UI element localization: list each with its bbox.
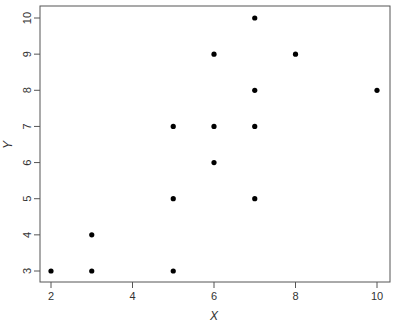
y-tick-label: 6 — [21, 160, 33, 166]
x-tick-label: 6 — [211, 290, 217, 302]
y-tick-label: 4 — [21, 232, 33, 238]
data-point — [211, 52, 216, 57]
x-tick-label: 2 — [48, 290, 54, 302]
data-point — [171, 124, 176, 129]
data-point — [171, 196, 176, 201]
y-tick-label: 9 — [21, 51, 33, 57]
data-point — [252, 88, 257, 93]
x-axis-ticks: 246810 — [48, 282, 383, 302]
data-point — [293, 52, 298, 57]
y-axis-ticks: 345678910 — [21, 12, 40, 274]
data-point — [252, 124, 257, 129]
data-point — [374, 88, 379, 93]
x-axis-title: X — [209, 309, 219, 323]
y-tick-label: 3 — [21, 268, 33, 274]
data-point — [252, 15, 257, 20]
x-tick-label: 4 — [129, 290, 135, 302]
scatter-chart: 246810 345678910 X Y — [0, 0, 396, 326]
plot-frame — [40, 6, 390, 282]
data-point — [48, 268, 53, 273]
x-tick-label: 10 — [371, 290, 383, 302]
data-points — [48, 15, 379, 273]
data-point — [211, 124, 216, 129]
y-axis-title: Y — [1, 140, 15, 149]
data-point — [89, 232, 94, 237]
data-point — [252, 196, 257, 201]
y-tick-label: 5 — [21, 196, 33, 202]
y-tick-label: 7 — [21, 123, 33, 129]
data-point — [211, 160, 216, 165]
data-point — [171, 268, 176, 273]
y-tick-label: 10 — [21, 12, 33, 24]
x-tick-label: 8 — [292, 290, 298, 302]
data-point — [89, 268, 94, 273]
y-tick-label: 8 — [21, 87, 33, 93]
